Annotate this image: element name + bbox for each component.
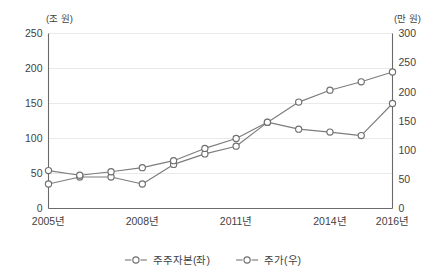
left-axis-tick-label: 250 [25,27,43,39]
data-point-marker [233,143,239,149]
left-axis-unit-label: (조 원) [46,13,73,24]
right-axis-tick-label: 150 [399,115,417,127]
left-axis-tick-label: 0 [37,202,43,214]
legend-item[interactable]: 주주자본(좌) [125,254,210,266]
legend-marker-icon [244,257,250,263]
data-point-marker [358,132,364,138]
x-axis-tick-label: 2016년 [376,215,409,227]
data-point-marker [327,129,333,135]
data-point-marker [139,181,145,187]
left-axis-tick-label: 100 [25,132,43,144]
plot-frame [49,34,393,209]
left-axis-tick-label: 200 [25,62,43,74]
x-axis-ticks: 2005년2008년2011년2014년2016년 [32,215,409,227]
right-axis-ticks: 050100150200250300 [399,27,417,214]
series-group-stock-price [45,100,395,178]
left-axis-tick-label: 150 [25,97,43,109]
data-point-marker [45,181,51,187]
data-point-marker [296,99,302,105]
right-axis-tick-label: 100 [399,144,417,156]
series-line-shareholder-equity [49,72,393,184]
series-group-shareholder-equity [45,69,395,187]
legend-item-label: 주주자본(좌) [153,254,210,266]
x-axis-tick-label: 2014년 [313,215,346,227]
line-chart: 050100150200250 050100150200250300 2005년… [0,0,437,279]
right-axis-tick-label: 0 [399,202,405,214]
data-point-marker [389,69,395,75]
right-axis-tick-label: 250 [399,56,417,68]
right-axis-tick-label: 200 [399,86,417,98]
chart-container: 050100150200250 050100150200250300 2005년… [0,0,437,279]
x-axis-tick-label: 2005년 [32,215,65,227]
left-axis-ticks: 050100150200250 [25,27,43,214]
chart-legend: 주주자본(좌)주가(우) [125,254,301,266]
x-axis-tick-label: 2008년 [126,215,159,227]
data-point-marker [77,172,83,178]
legend-item-label: 주가(우) [264,254,301,266]
data-point-marker [45,167,51,173]
data-point-marker [202,145,208,151]
data-point-marker [358,79,364,85]
right-axis-tick-label: 300 [399,27,417,39]
data-point-marker [389,100,395,106]
gridlines [49,34,393,174]
right-axis-tick-label: 50 [399,173,411,185]
axis-unit-labels: (조 원) (만 원) [46,13,421,24]
data-point-marker [108,169,114,175]
data-point-marker [264,119,270,125]
data-point-marker [139,165,145,171]
data-point-marker [296,126,302,132]
x-axis-tick-label: 2011년 [220,215,253,227]
legend-marker-icon [133,257,139,263]
series-line-stock-price [49,104,393,176]
data-point-marker [233,135,239,141]
data-point-marker [327,87,333,93]
left-axis-tick-label: 50 [31,167,43,179]
legend-item[interactable]: 주가(우) [236,254,301,266]
right-axis-unit-label: (만 원) [394,13,421,24]
data-point-marker [170,158,176,164]
